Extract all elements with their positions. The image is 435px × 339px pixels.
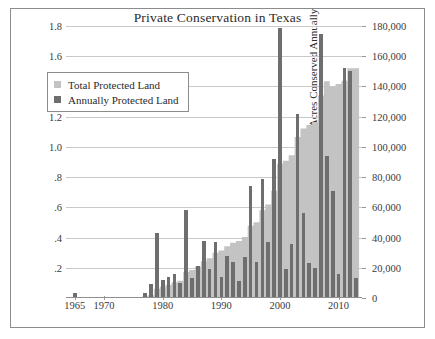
bar <box>231 262 235 298</box>
bar <box>307 263 311 298</box>
y-axis-left-tick-label: .6 <box>54 202 62 213</box>
y-axis-right-tick-mark <box>362 26 366 27</box>
bar <box>225 256 229 298</box>
y-axis-left-tick-label: 1.6 <box>49 51 62 62</box>
x-axis-tick-label: 2010 <box>328 300 349 311</box>
y-axis-right-tick-mark <box>362 117 366 118</box>
bar <box>331 191 335 298</box>
bar <box>261 179 265 298</box>
y-axis-right-tick-label: 120,000 <box>366 111 406 122</box>
bar <box>278 28 282 298</box>
chart-figure: Private Conservation in Texas Millions o… <box>0 0 435 339</box>
y-axis-right-tick-mark <box>362 56 366 57</box>
bar <box>296 114 300 298</box>
x-axis-tick-label: 1990 <box>211 300 232 311</box>
y-axis-right-tick-label: 100,000 <box>366 141 406 152</box>
legend-item-annually-protected-land: Annually Protected Land <box>54 92 179 107</box>
bar <box>343 68 347 298</box>
y-axis-right-tick-mark <box>362 86 366 87</box>
y-axis-right-tick-label: 40,000 <box>366 232 401 243</box>
bar <box>220 277 224 298</box>
bar <box>149 284 153 298</box>
bar <box>155 233 159 298</box>
bar <box>313 268 317 298</box>
y-axis-left-ticks: .2.4.6.81.01.21.41.61.8 <box>26 26 62 298</box>
x-axis-tick-label: 1965 <box>64 300 85 311</box>
y-axis-left-tick-label: 1.0 <box>49 141 62 152</box>
bar <box>249 186 253 298</box>
bar <box>190 278 194 298</box>
chart-legend: Total Protected Land Annually Protected … <box>47 72 189 112</box>
plot-area <box>66 26 362 298</box>
x-axis-tick-label: 1980 <box>152 300 173 311</box>
x-axis-ticks: 196519701980199020002010 <box>66 300 362 316</box>
bar <box>243 257 247 298</box>
legend-item-total-protected-land: Total Protected Land <box>54 77 179 92</box>
bar <box>178 283 182 298</box>
legend-label-total-protected-land: Total Protected Land <box>68 79 160 91</box>
y-axis-left-tick-label: 1.8 <box>49 21 62 32</box>
bar <box>319 34 323 298</box>
y-axis-right-tick-label: 80,000 <box>366 172 401 183</box>
y-axis-right-ticks: 020,00040,00060,00080,000100,000120,0001… <box>366 26 414 298</box>
y-axis-right-tick-label: 60,000 <box>366 202 401 213</box>
plot-inner <box>66 26 362 298</box>
bar <box>214 242 218 298</box>
y-axis-right-tick-mark <box>362 177 366 178</box>
y-axis-right-tick-label: 20,000 <box>366 262 401 273</box>
bar <box>348 71 352 298</box>
y-axis-right-tick-label: 180,000 <box>366 21 406 32</box>
bar <box>302 213 306 298</box>
bar <box>272 159 276 298</box>
y-axis-right-tick-label: 0 <box>366 293 377 304</box>
x-axis-tick-label: 2000 <box>269 300 290 311</box>
bar <box>255 262 259 298</box>
bar <box>290 244 294 298</box>
x-axis-tick-label: 1970 <box>94 300 115 311</box>
y-axis-right-tick-mark <box>362 147 366 148</box>
legend-label-annually-protected-land: Annually Protected Land <box>68 94 179 106</box>
y-axis-left-tick-label: .2 <box>54 262 62 273</box>
y-axis-right-tick-mark <box>362 207 366 208</box>
bar <box>337 274 341 298</box>
bar <box>266 242 270 298</box>
bar <box>284 269 288 298</box>
bar <box>161 280 165 298</box>
y-axis-right-tick-mark <box>362 268 366 269</box>
bar <box>167 277 171 298</box>
y-axis-right-tick-mark <box>362 298 366 299</box>
y-axis-left-tick-label: .8 <box>54 172 62 183</box>
bar <box>354 278 358 298</box>
legend-swatch-annually-protected-land <box>54 96 61 103</box>
y-axis-left-tick-label: .4 <box>54 232 62 243</box>
bar <box>173 274 177 298</box>
bar <box>202 241 206 298</box>
legend-swatch-total-protected-land <box>54 81 61 88</box>
y-axis-left-tick-label: 1.2 <box>49 111 62 122</box>
bar <box>196 266 200 298</box>
y-axis-right-tick-label: 160,000 <box>366 51 406 62</box>
y-axis-right-tick-mark <box>362 238 366 239</box>
bar <box>208 269 212 298</box>
x-axis-line <box>66 297 362 298</box>
bar <box>237 281 241 298</box>
y-axis-right-tick-label: 140,000 <box>366 81 406 92</box>
bar <box>184 210 188 298</box>
bar <box>325 156 329 298</box>
